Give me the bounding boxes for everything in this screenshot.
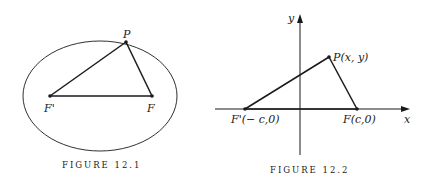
figure-12-2: x y P(x, y) F'(− c,0) F(c,0) FIGURE 12.2 bbox=[215, 12, 411, 175]
point-f bbox=[150, 94, 154, 98]
label-p: P(x, y) bbox=[332, 51, 368, 64]
y-axis-label: y bbox=[287, 12, 295, 25]
caption-figure-12-2: FIGURE 12.2 bbox=[270, 165, 349, 175]
label-f: F(c,0) bbox=[342, 113, 376, 126]
figures-canvas: P F' F FIGURE 12.1 x y P(x, y) F'(− c,0)… bbox=[0, 0, 431, 184]
label-p: P bbox=[122, 28, 131, 41]
segment-f-prime-p bbox=[245, 57, 329, 109]
label-f-prime: F' bbox=[43, 102, 55, 115]
label-f: F bbox=[146, 102, 155, 115]
y-axis-arrow-icon bbox=[297, 14, 303, 23]
segment-f-prime-p bbox=[50, 42, 126, 96]
figure-12-1: P F' F FIGURE 12.1 bbox=[23, 28, 177, 170]
x-axis-label: x bbox=[404, 113, 411, 126]
x-axis-arrow-icon bbox=[401, 106, 410, 112]
segment-p-f bbox=[329, 57, 357, 109]
point-p bbox=[327, 55, 331, 59]
caption-figure-12-1: FIGURE 12.1 bbox=[62, 160, 141, 170]
point-f bbox=[355, 107, 359, 111]
point-f-prime bbox=[48, 94, 52, 98]
label-f-prime: F'(− c,0) bbox=[230, 113, 280, 126]
segment-p-f bbox=[126, 42, 152, 96]
point-f-prime bbox=[243, 107, 247, 111]
